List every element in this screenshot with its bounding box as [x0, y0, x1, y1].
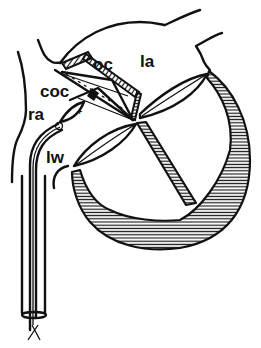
- tricuspid-valve-midline: [76, 124, 136, 165]
- label-coc: coc: [40, 82, 69, 101]
- plus-marker: +: [77, 107, 82, 117]
- label-lw: lw: [46, 148, 65, 167]
- septum-hatched: [137, 122, 196, 205]
- label-oc: oc: [93, 55, 113, 74]
- label-ra: ra: [28, 105, 45, 124]
- filled-diamond-marker: [87, 88, 99, 101]
- right-atrium-wall: [12, 52, 26, 182]
- lw-curve: [54, 166, 68, 188]
- label-la: la: [140, 52, 155, 71]
- heart-diagram: + oc la coc ra lw: [0, 0, 261, 348]
- sheath-end: [22, 312, 46, 318]
- mitral-valve-midline: [142, 74, 207, 116]
- right-upper-outline: [196, 33, 222, 70]
- atrial-notch-outline: [38, 40, 60, 63]
